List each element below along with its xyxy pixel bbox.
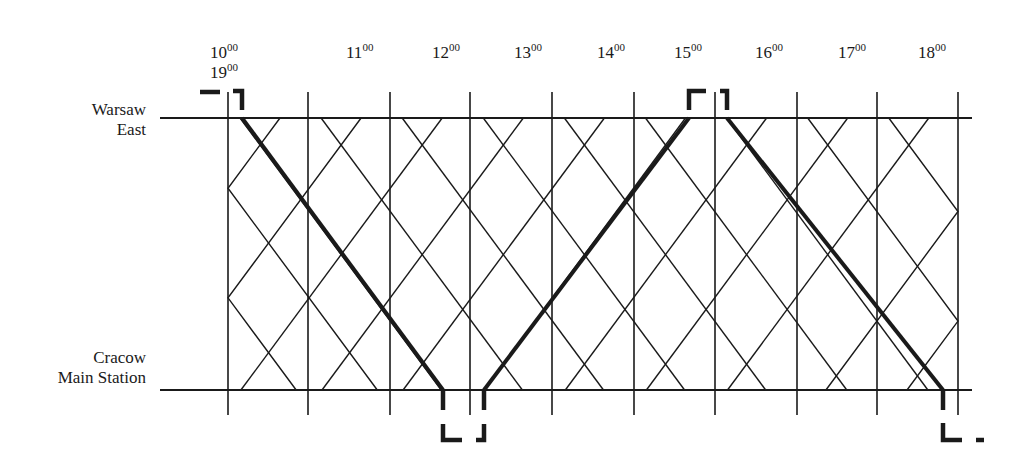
time-label-14: 1400 bbox=[597, 44, 625, 61]
time-label-13: 1300 bbox=[514, 44, 542, 61]
time-label-11: 1100 bbox=[346, 44, 373, 61]
station-lines bbox=[160, 118, 972, 390]
station-top-line2: East bbox=[0, 120, 146, 140]
time-label-17: 1700 bbox=[838, 44, 866, 61]
train-path-down bbox=[402, 118, 603, 390]
bracket-corner bbox=[689, 91, 706, 110]
station-bottom-line1: Cracow bbox=[0, 348, 146, 368]
train-path-up bbox=[565, 118, 766, 390]
station-top-line1: Warsaw bbox=[0, 100, 146, 120]
bracket-corner bbox=[476, 424, 484, 440]
time-label-18: 1800 bbox=[918, 44, 946, 61]
train-graph-diagram bbox=[0, 0, 1016, 467]
highlighted-run bbox=[484, 118, 689, 390]
train-path-down bbox=[727, 118, 928, 390]
time-label-19: 1900 bbox=[210, 64, 238, 81]
station-bottom-line2: Main Station bbox=[0, 368, 146, 388]
train-path-down bbox=[826, 118, 958, 390]
train-path-down bbox=[808, 118, 958, 390]
time-label-15: 1500 bbox=[674, 44, 702, 61]
train-path-up bbox=[646, 118, 847, 390]
bracket-corner bbox=[720, 91, 727, 110]
bracket-corner bbox=[943, 423, 962, 440]
time-label-16: 1600 bbox=[755, 44, 783, 61]
time-label-12: 1200 bbox=[432, 44, 460, 61]
train-path-grid bbox=[228, 118, 958, 390]
bracket-corner bbox=[443, 424, 462, 440]
train-path-up bbox=[403, 118, 604, 390]
train-path-up bbox=[228, 118, 377, 390]
station-label-top: Warsaw East bbox=[0, 100, 146, 140]
bracket-corner bbox=[233, 91, 242, 110]
train-path-down bbox=[564, 118, 765, 390]
train-path-down bbox=[646, 118, 847, 390]
station-label-bottom: Cracow Main Station bbox=[0, 348, 146, 388]
time-label-10: 1000 bbox=[210, 44, 238, 61]
train-path-up bbox=[322, 118, 523, 390]
highlighted-run bbox=[727, 118, 943, 390]
train-path-down bbox=[321, 118, 522, 390]
